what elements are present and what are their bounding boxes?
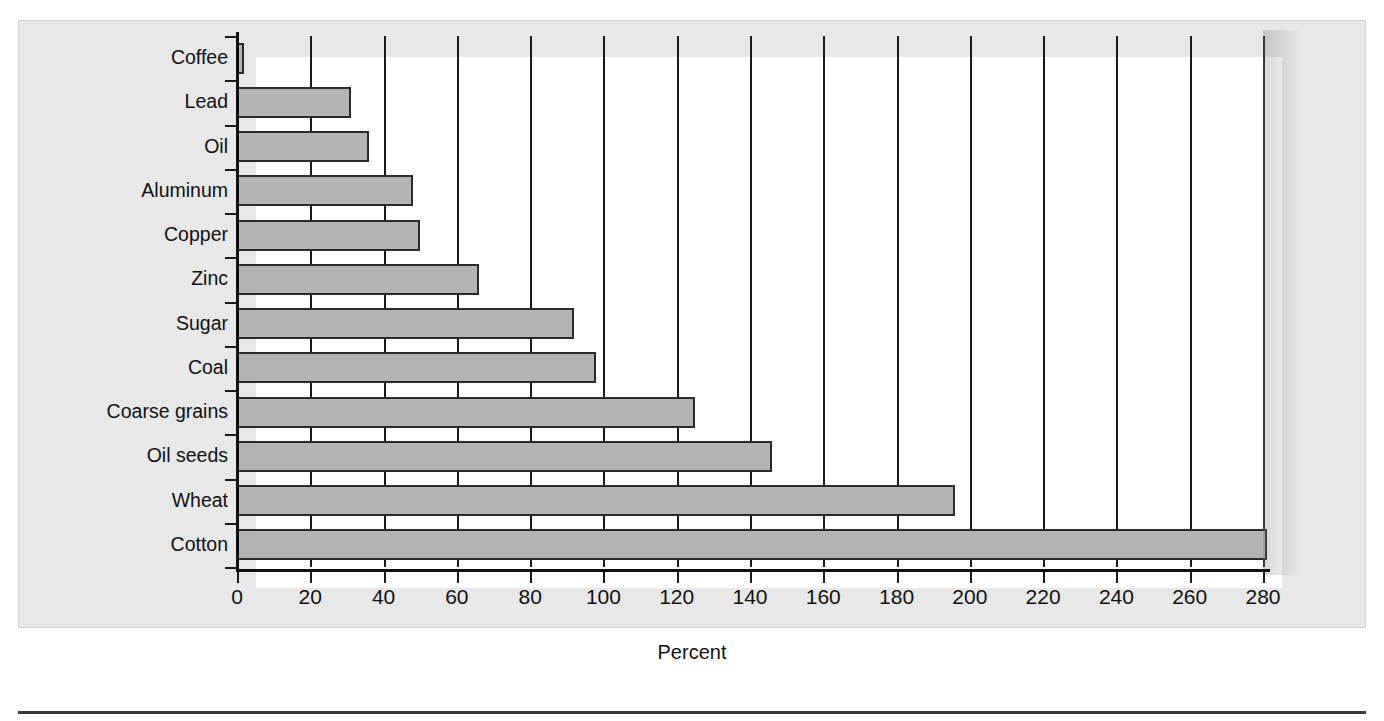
x-tick-label-220: 220: [1003, 586, 1083, 607]
y-label-aluminum: Aluminum: [141, 181, 228, 201]
x-tick-140: [750, 572, 752, 583]
y-label-oil: Oil: [204, 137, 228, 157]
x-axis-title: Percent: [0, 641, 1384, 664]
cut-off-text-sliver: [210, 0, 1110, 9]
y-label-wheat: Wheat: [172, 491, 228, 511]
figure-container: CoffeeLeadOilAluminumCopperZincSugarCoal…: [0, 0, 1384, 721]
x-tick-label-240: 240: [1076, 586, 1156, 607]
x-tick-label-140: 140: [710, 586, 790, 607]
x-tick-label-100: 100: [563, 586, 643, 607]
y-label-lead: Lead: [185, 92, 228, 112]
bar-oil-seeds: [237, 441, 772, 472]
gridline-200: [970, 36, 972, 567]
y-label-coffee: Coffee: [171, 48, 228, 68]
x-tick-40: [384, 572, 386, 583]
x-tick-100: [603, 572, 605, 583]
y-label-coal: Coal: [188, 358, 228, 378]
x-tick-20: [310, 572, 312, 583]
y-label-zinc: Zinc: [191, 269, 228, 289]
x-tick-label-260: 260: [1150, 586, 1230, 607]
y-label-cotton: Cotton: [171, 535, 228, 555]
gridline-260: [1190, 36, 1192, 567]
x-tick-label-120: 120: [637, 586, 717, 607]
gridline-240: [1116, 36, 1118, 567]
bottom-rule: [18, 711, 1366, 714]
x-tick-200: [970, 572, 972, 583]
x-tick-label-160: 160: [783, 586, 863, 607]
bar-aluminum: [237, 175, 413, 206]
x-tick-0: [237, 572, 239, 583]
y-label-sugar: Sugar: [176, 314, 228, 334]
y-label-coarse-grains: Coarse grains: [107, 402, 228, 422]
x-tick-220: [1043, 572, 1045, 583]
x-tick-label-40: 40: [344, 586, 424, 607]
bar-zinc: [237, 264, 479, 295]
bar-copper: [237, 220, 420, 251]
bar-lead: [237, 87, 351, 118]
bar-wheat: [237, 485, 955, 516]
x-axis-spine: [236, 569, 1270, 572]
bar-coal: [237, 352, 596, 383]
x-tick-60: [457, 572, 459, 583]
bar-oil: [237, 131, 369, 162]
bar-sugar: [237, 308, 574, 339]
gridline-220: [1043, 36, 1045, 567]
x-tick-160: [823, 572, 825, 583]
x-tick-280: [1263, 572, 1265, 583]
x-tick-80: [530, 572, 532, 583]
y-label-copper: Copper: [164, 225, 228, 245]
y-axis-labels: CoffeeLeadOilAluminumCopperZincSugarCoal…: [20, 0, 228, 608]
x-tick-120: [677, 572, 679, 583]
gridline-280: [1263, 36, 1265, 567]
x-tick-label-60: 60: [417, 586, 497, 607]
bar-coarse-grains: [237, 397, 695, 428]
bar-cotton: [237, 529, 1267, 560]
x-tick-240: [1116, 572, 1118, 583]
x-tick-260: [1190, 572, 1192, 583]
y-label-oil-seeds: Oil seeds: [147, 446, 228, 466]
x-tick-label-180: 180: [857, 586, 937, 607]
x-tick-label-20: 20: [270, 586, 350, 607]
x-tick-label-200: 200: [930, 586, 1010, 607]
x-tick-label-280: 280: [1223, 586, 1303, 607]
x-tick-180: [897, 572, 899, 583]
x-tick-label-0: 0: [197, 586, 277, 607]
x-tick-label-80: 80: [490, 586, 570, 607]
